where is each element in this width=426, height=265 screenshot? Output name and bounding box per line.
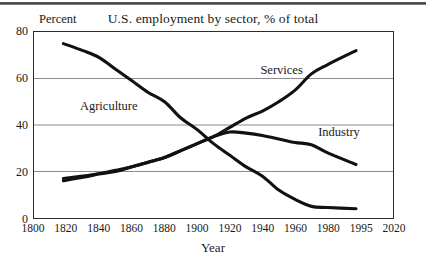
series-label-services: Services	[260, 63, 302, 78]
y-tick-40: 40	[0, 118, 28, 133]
x-tick-1940: 1940	[251, 222, 274, 234]
x-tick-1800: 1800	[22, 222, 45, 234]
y-tick-60: 60	[0, 71, 28, 86]
x-tick-1820: 1820	[54, 222, 77, 234]
line-industry	[63, 132, 356, 181]
x-tick-2020: 2020	[383, 222, 406, 234]
y-tick-20: 20	[0, 165, 28, 180]
x-tick-1980: 1980	[317, 222, 340, 234]
x-tick-1920: 1920	[218, 222, 241, 234]
x-tick-1860: 1860	[120, 222, 143, 234]
x-tick-1900: 1900	[186, 222, 209, 234]
y-tick-80: 80	[0, 24, 28, 39]
line-services	[63, 51, 356, 179]
x-tick-1960: 1960	[284, 222, 307, 234]
line-agriculture	[63, 44, 356, 209]
x-tick-1880: 1880	[153, 222, 176, 234]
chart-figure: U.S. employment by sector, % of total Pe…	[0, 0, 426, 265]
x-tick-1840: 1840	[87, 222, 110, 234]
series-label-agriculture: Agriculture	[80, 99, 138, 114]
x-tick-1995: 1995	[350, 222, 373, 234]
series-label-industry: Industry	[318, 125, 360, 140]
